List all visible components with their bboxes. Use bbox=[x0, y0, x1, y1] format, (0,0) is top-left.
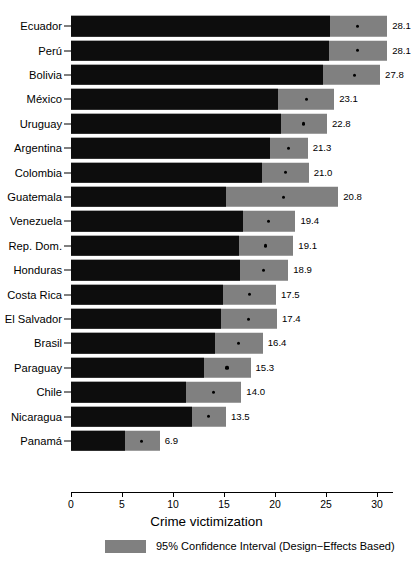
point-estimate-marker bbox=[225, 366, 228, 369]
estimate-bar bbox=[71, 309, 221, 330]
chart-row: Brasil16.4 bbox=[0, 331, 413, 355]
value-label: 14.0 bbox=[246, 387, 265, 397]
category-label: Paraguay bbox=[0, 362, 62, 374]
chart-row: Guatemala20.8 bbox=[0, 185, 413, 209]
x-axis-tick-label: 30 bbox=[371, 499, 383, 510]
x-axis-tick bbox=[122, 492, 123, 497]
value-label: 27.8 bbox=[385, 70, 404, 80]
estimate-bar bbox=[71, 406, 192, 427]
estimate-bar bbox=[71, 114, 281, 135]
category-label: Honduras bbox=[0, 264, 62, 276]
value-label: 21.3 bbox=[313, 143, 332, 153]
category-label: El Salvador bbox=[0, 313, 62, 325]
value-label: 19.1 bbox=[298, 241, 317, 251]
bar-group bbox=[71, 236, 293, 257]
point-estimate-marker bbox=[356, 25, 359, 28]
chart-row: Paraguay15.3 bbox=[0, 356, 413, 380]
estimate-bar bbox=[71, 65, 323, 86]
bar-group bbox=[71, 89, 334, 110]
bar-group bbox=[71, 406, 226, 427]
crime-victimization-chart: Ecuador28.1Perú28.1Bolivia27.8México23.1… bbox=[0, 0, 413, 569]
category-label: Venezuela bbox=[0, 215, 62, 227]
category-label: Panamá bbox=[0, 435, 62, 447]
category-tick-mark bbox=[64, 123, 71, 124]
point-estimate-marker bbox=[284, 171, 287, 174]
value-label: 21.0 bbox=[314, 168, 333, 178]
value-label: 28.1 bbox=[392, 46, 411, 56]
category-label: México bbox=[0, 93, 62, 105]
estimate-bar bbox=[71, 284, 223, 305]
point-estimate-marker bbox=[140, 439, 143, 442]
value-label: 22.8 bbox=[332, 119, 351, 129]
category-tick-mark bbox=[64, 74, 71, 75]
value-label: 13.5 bbox=[231, 412, 250, 422]
x-axis-tick bbox=[71, 492, 72, 497]
category-tick-mark bbox=[64, 221, 71, 222]
point-estimate-marker bbox=[305, 98, 308, 101]
chart-row: Colombia21.0 bbox=[0, 160, 413, 184]
value-label: 15.3 bbox=[256, 363, 275, 373]
estimate-bar bbox=[71, 211, 243, 232]
chart-row: Chile14.0 bbox=[0, 380, 413, 404]
chart-row: Nicaragua13.5 bbox=[0, 404, 413, 428]
point-estimate-marker bbox=[287, 147, 290, 150]
estimate-bar bbox=[71, 236, 239, 257]
estimate-bar bbox=[71, 431, 125, 452]
bar-group bbox=[71, 40, 387, 61]
category-label: Brasil bbox=[0, 337, 62, 349]
category-tick-mark bbox=[64, 148, 71, 149]
value-label: 16.4 bbox=[268, 338, 287, 348]
x-axis-tick-label: 25 bbox=[320, 499, 332, 510]
bar-group bbox=[71, 431, 160, 452]
estimate-bar bbox=[71, 260, 240, 281]
estimate-bar bbox=[71, 16, 330, 37]
chart-row: México23.1 bbox=[0, 87, 413, 111]
chart-row: El Salvador17.4 bbox=[0, 307, 413, 331]
chart-row: Uruguay22.8 bbox=[0, 112, 413, 136]
category-label: Uruguay bbox=[0, 118, 62, 130]
point-estimate-marker bbox=[353, 73, 356, 76]
category-tick-mark bbox=[64, 440, 71, 441]
legend-swatch-confidence-interval bbox=[105, 540, 146, 553]
category-tick-mark bbox=[64, 392, 71, 393]
value-label: 6.9 bbox=[165, 436, 178, 446]
chart-row: Costa Rica17.5 bbox=[0, 282, 413, 306]
x-axis-tick-label: 5 bbox=[119, 499, 125, 510]
bar-group bbox=[71, 309, 277, 330]
chart-row: Bolivia27.8 bbox=[0, 63, 413, 87]
category-tick-mark bbox=[64, 343, 71, 344]
value-label: 28.1 bbox=[392, 21, 411, 31]
category-tick-mark bbox=[64, 245, 71, 246]
estimate-bar bbox=[71, 358, 204, 379]
bar-group bbox=[71, 162, 309, 183]
category-label: Colombia bbox=[0, 167, 62, 179]
bar-group bbox=[71, 65, 380, 86]
category-label: Perú bbox=[0, 45, 62, 57]
value-label: 17.5 bbox=[281, 290, 300, 300]
x-axis-tick bbox=[173, 492, 174, 497]
category-tick-mark bbox=[64, 318, 71, 319]
category-tick-mark bbox=[64, 172, 71, 173]
category-label: Ecuador bbox=[0, 20, 62, 32]
bar-group bbox=[71, 16, 387, 37]
estimate-bar bbox=[71, 40, 329, 61]
x-axis-tick-label: 20 bbox=[269, 499, 281, 510]
estimate-bar bbox=[71, 162, 262, 183]
x-axis-tick bbox=[224, 492, 225, 497]
estimate-bar bbox=[71, 138, 270, 159]
estimate-bar bbox=[71, 333, 215, 354]
chart-row: Venezuela19.4 bbox=[0, 209, 413, 233]
bar-group bbox=[71, 211, 295, 232]
bar-group bbox=[71, 333, 263, 354]
category-label: Costa Rica bbox=[0, 289, 62, 301]
estimate-bar bbox=[71, 382, 186, 403]
category-tick-mark bbox=[64, 26, 71, 27]
point-estimate-marker bbox=[282, 195, 285, 198]
category-label: Rep. Dom. bbox=[0, 240, 62, 252]
value-label: 19.4 bbox=[300, 216, 319, 226]
chart-legend: 95% Confidence Interval (Design−Effects … bbox=[0, 537, 413, 557]
value-label: 20.8 bbox=[343, 192, 362, 202]
estimate-bar bbox=[71, 89, 278, 110]
value-label: 17.4 bbox=[282, 314, 301, 324]
plot-area: Ecuador28.1Perú28.1Bolivia27.8México23.1… bbox=[0, 0, 413, 489]
